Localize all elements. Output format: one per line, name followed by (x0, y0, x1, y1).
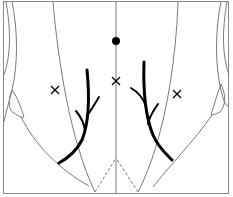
left-dashed-line (95, 158, 116, 192)
left-flank-curve (21, 117, 89, 186)
cross-mark-right (173, 90, 181, 98)
left-arm-outline-outer (4, 2, 10, 75)
right-branch-stroke (131, 62, 172, 160)
right-dashed-line (116, 158, 138, 192)
left-arm-outline-inner (4, 2, 17, 122)
diagram-canvas (0, 0, 233, 197)
cross-mark-left (51, 86, 59, 94)
dot-mark (112, 37, 120, 45)
anatomy-diagram (0, 0, 233, 197)
right-hand-shape (211, 84, 225, 115)
